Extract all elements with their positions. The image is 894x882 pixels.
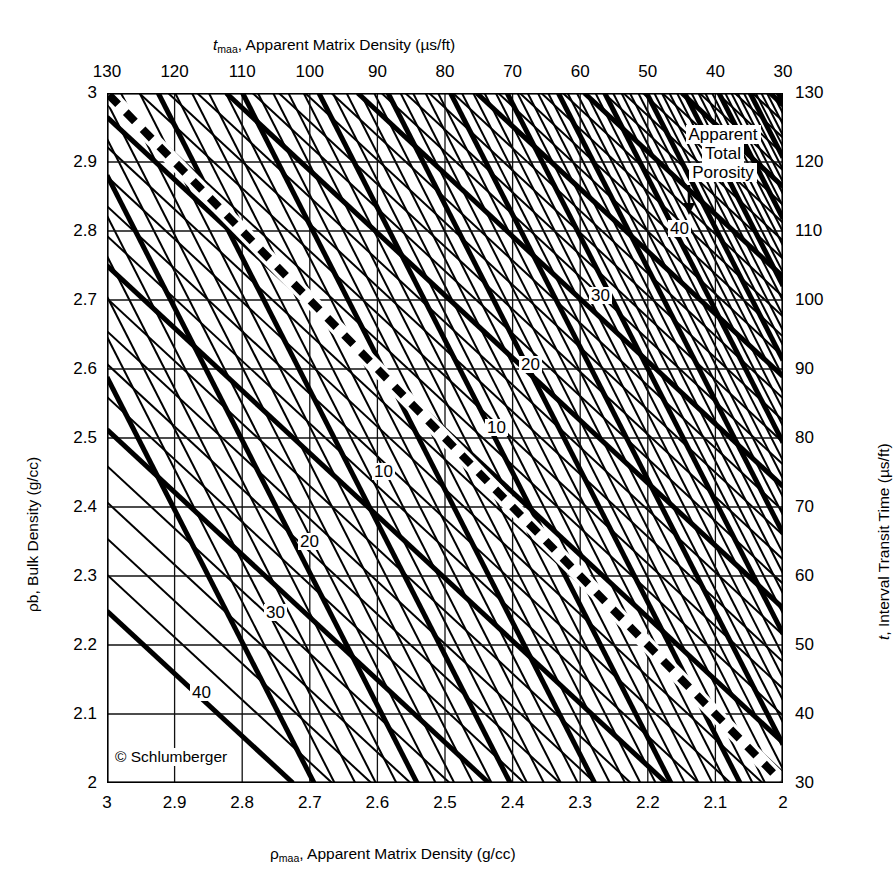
bottom-axis-rest: , Apparent Matrix Density (g/cc) (299, 845, 515, 862)
top-axis-rest: , Apparent Matrix Density (µs/ft) (238, 36, 455, 53)
top-tick-label: 130 (77, 62, 137, 82)
bottom-axis-subscript: maa (279, 852, 300, 864)
contour-label: 10 (485, 419, 508, 436)
top-tick-label: 50 (618, 62, 678, 82)
left-tick-label: 2.9 (39, 152, 97, 172)
left-axis-symbol: ρb (24, 595, 41, 612)
bottom-tick-label: 2.6 (347, 793, 407, 813)
left-tick-label: 2.8 (39, 221, 97, 241)
contour-label: 40 (190, 684, 213, 701)
left-axis-title: ρb, Bulk Density (g/cc) (24, 457, 42, 612)
annotation-line-1: Apparent (686, 125, 761, 144)
right-tick-label: 110 (795, 221, 845, 241)
right-tick-label: 40 (795, 704, 845, 724)
bottom-tick-label: 2.2 (618, 793, 678, 813)
bottom-tick-label: 2.3 (550, 793, 610, 813)
right-tick-label: 100 (795, 290, 845, 310)
right-tick-label: 60 (795, 566, 845, 586)
apparent-total-porosity-annotation: Apparent Total Porosity (664, 125, 782, 182)
right-axis-symbol: t (875, 636, 892, 640)
bottom-tick-label: 2.4 (483, 793, 543, 813)
left-tick-label: 2 (39, 773, 97, 793)
top-tick-label: 70 (483, 62, 543, 82)
top-axis-title: tmaa, Apparent Matrix Density (µs/ft) (213, 36, 455, 55)
top-tick-label: 60 (550, 62, 610, 82)
top-axis-subscript: maa (217, 43, 238, 55)
left-tick-label: 2.3 (39, 566, 97, 586)
contour-label: 40 (668, 220, 691, 237)
left-tick-label: 2.7 (39, 290, 97, 310)
top-tick-label: 110 (212, 62, 272, 82)
top-tick-label: 30 (753, 62, 813, 82)
copyright-credit: © Schlumberger (113, 748, 229, 766)
bottom-tick-label: 2.1 (685, 793, 745, 813)
bottom-axis-symbol: ρ (270, 845, 279, 862)
right-tick-label: 120 (795, 152, 845, 172)
left-tick-label: 3 (39, 83, 97, 103)
right-axis-title: t, Interval Transit Time (µs/ft) (875, 443, 893, 640)
top-tick-label: 80 (415, 62, 475, 82)
right-tick-label: 30 (795, 773, 845, 793)
annotation-line-3: Porosity (689, 163, 756, 182)
bottom-tick-label: 2 (753, 793, 813, 813)
annotation-arrow-down-icon (678, 185, 700, 215)
bottom-tick-label: 2.7 (280, 793, 340, 813)
bottom-axis-title: ρmaa, Apparent Matrix Density (g/cc) (270, 845, 516, 864)
bottom-tick-label: 2.9 (145, 793, 205, 813)
annotation-line-2: Total (702, 144, 744, 163)
bottom-tick-label: 3 (77, 793, 137, 813)
right-tick-label: 50 (795, 635, 845, 655)
plot-area: 4030201010203040 Apparent Total Porosity… (107, 93, 783, 783)
left-tick-label: 2.5 (39, 428, 97, 448)
top-tick-label: 90 (347, 62, 407, 82)
right-axis-rest: , Interval Transit Time (µs/ft) (875, 443, 892, 635)
top-tick-label: 40 (685, 62, 745, 82)
right-tick-label: 90 (795, 359, 845, 379)
contour-label: 20 (298, 533, 321, 550)
right-tick-label: 70 (795, 497, 845, 517)
contour-label: 30 (589, 287, 612, 304)
contour-label: 20 (519, 356, 542, 373)
chart-root: tmaa, Apparent Matrix Density (µs/ft) ρm… (0, 0, 894, 882)
left-tick-label: 2.2 (39, 635, 97, 655)
contour-label: 10 (372, 463, 395, 480)
right-tick-label: 80 (795, 428, 845, 448)
right-tick-label: 130 (795, 83, 845, 103)
top-tick-label: 120 (145, 62, 205, 82)
left-tick-label: 2.1 (39, 704, 97, 724)
bottom-tick-label: 2.8 (212, 793, 272, 813)
left-tick-label: 2.4 (39, 497, 97, 517)
left-tick-label: 2.6 (39, 359, 97, 379)
top-tick-label: 100 (280, 62, 340, 82)
contour-label: 30 (264, 604, 287, 621)
bottom-tick-label: 2.5 (415, 793, 475, 813)
